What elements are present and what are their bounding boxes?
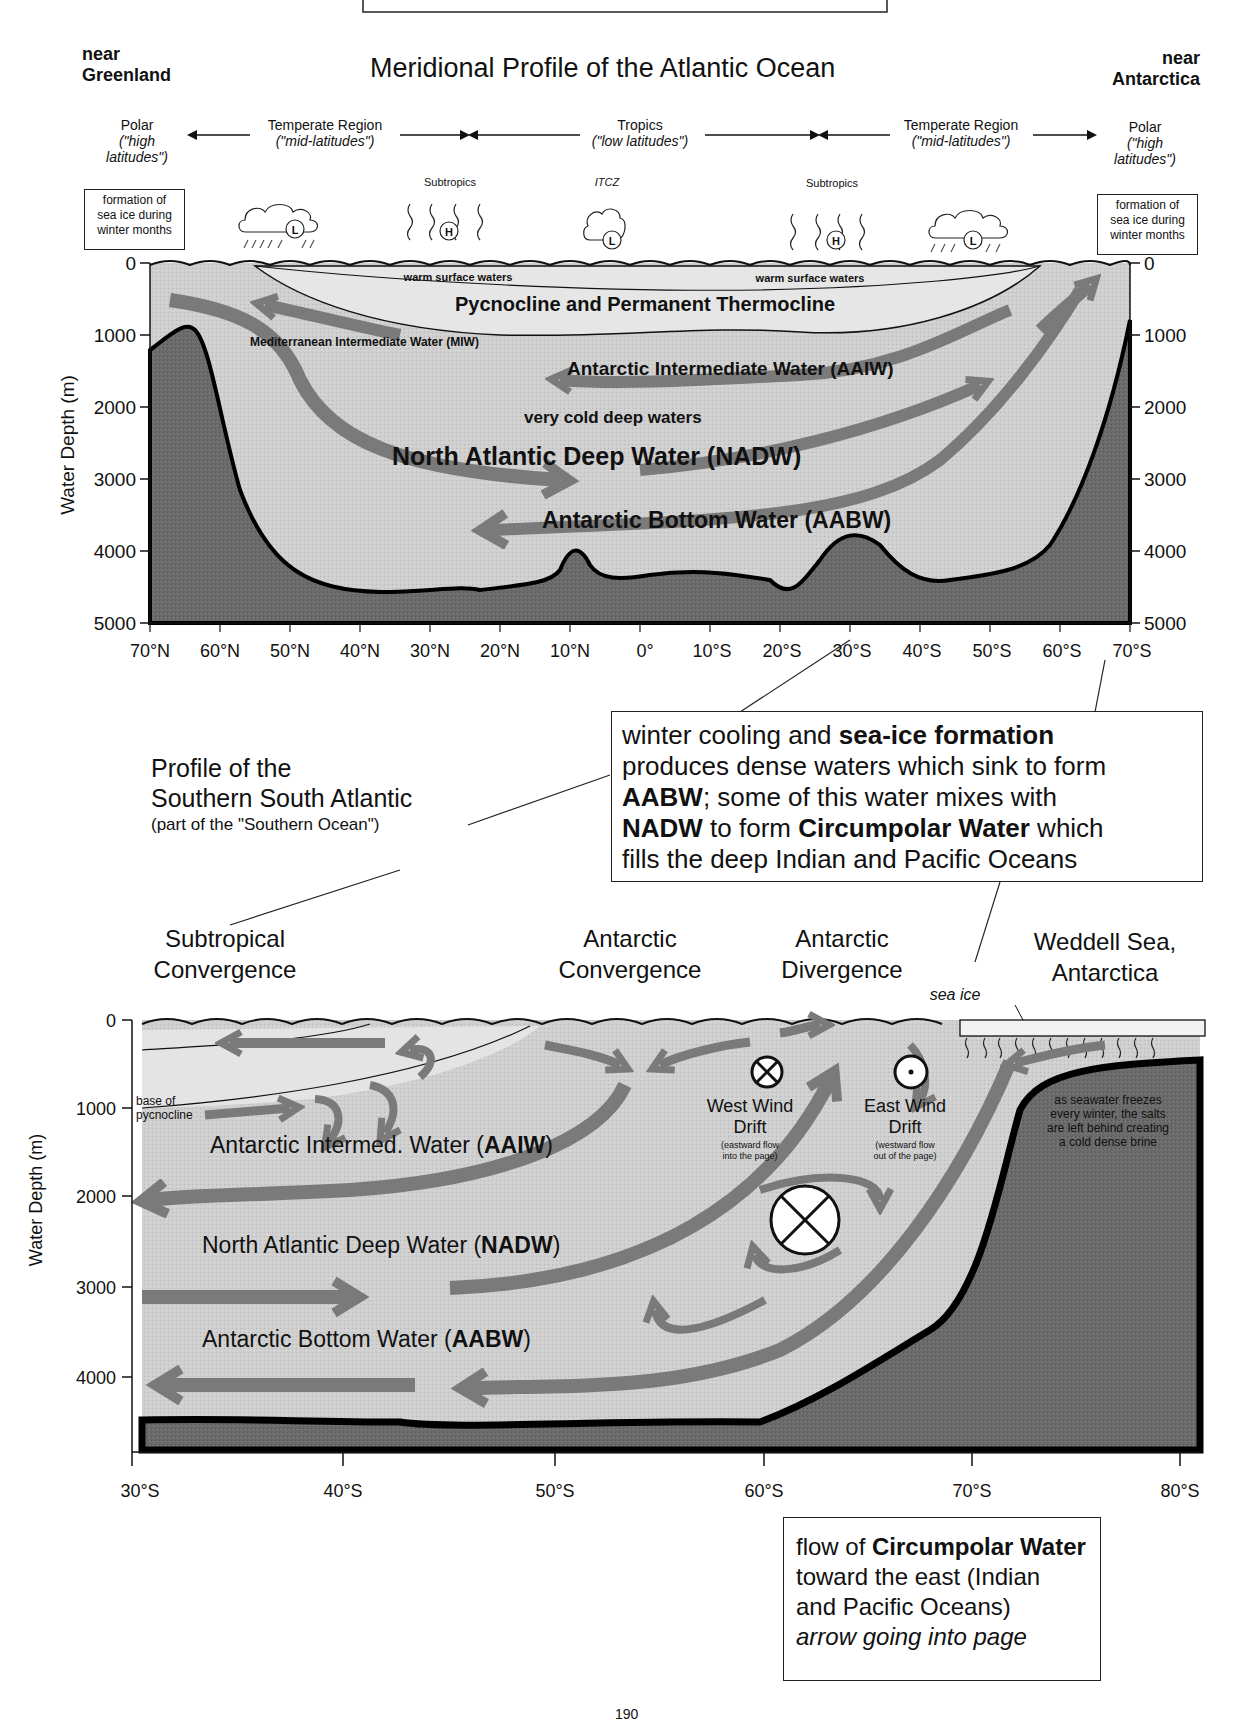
top-x-tick: 40°N (340, 641, 380, 661)
top-y-tick-right: 3000 (1144, 469, 1186, 490)
corner-line: near (82, 44, 171, 65)
evaporation-high-icon: H (408, 204, 483, 240)
east-wind-drift-sub: (westward flow (875, 1140, 935, 1150)
callout-bold: NADW (622, 813, 703, 843)
west-wind-drift-sub: (eastward flow (721, 1140, 780, 1150)
bottom-y-tick: 3000 (76, 1278, 116, 1298)
out-of-page-symbol-icon (895, 1056, 927, 1088)
antarctic-divergence-header: Antarctic Divergence (762, 923, 922, 985)
box-line: formation of (89, 193, 180, 208)
top-y-tick: 5000 (94, 613, 136, 634)
atlantic-profile-chart: 0 1000 2000 3000 4000 5000 0 1000 2000 3… (57, 253, 1186, 661)
top-y-axis-label: Water Depth (m) (57, 375, 78, 515)
top-chart-title: Meridional Profile of the Atlantic Ocean (370, 53, 835, 84)
header-line: Convergence (145, 954, 305, 985)
southern-ocean-profile-chart: 0 1000 2000 3000 4000 Water Depth (m) 30… (26, 986, 1205, 1501)
very-cold-label: very cold deep waters (524, 408, 702, 427)
top-x-tick: 20°N (480, 641, 520, 661)
brine-label: are left behind creating (1047, 1121, 1169, 1135)
region-tropics: Tropics ("low latitudes") (575, 117, 705, 149)
leader-line (1095, 660, 1105, 712)
itcz-cloud-icon: L (584, 209, 625, 249)
top-y-tick: 1000 (94, 325, 136, 346)
aaiw-label: Antarctic Intermediate Water (AAIW) (567, 358, 894, 379)
callout-text: which (1030, 813, 1104, 843)
storm-cloud-icon: L (929, 211, 1008, 253)
box-line: formation of (1102, 198, 1193, 213)
bottom-x-tick: 60°S (744, 1481, 783, 1501)
storm-cloud-icon: L (239, 205, 318, 249)
region-polar-north: Polar ("high latitudes") (92, 117, 182, 165)
circumpolar-flow-into-page-icon (771, 1186, 839, 1254)
callout-text: fills the deep Indian and Pacific Oceans (622, 844, 1192, 875)
corner-line: near (1112, 48, 1200, 69)
box-line: sea ice during (89, 208, 180, 223)
top-y-tick: 0 (125, 253, 136, 274)
bottom-x-tick: 50°S (535, 1481, 574, 1501)
evaporation-high-icon: H (791, 214, 865, 250)
top-x-tick: 70°S (1112, 641, 1151, 661)
top-x-tick: 10°N (550, 641, 590, 661)
subtropics-right-label: Subtropics (806, 177, 858, 189)
aaiw-label-south: Antarctic Intermed. Water (AAIW) (210, 1132, 553, 1158)
legend-text: flow of (796, 1533, 872, 1560)
brine-label: every winter, the salts (1050, 1107, 1165, 1121)
bottom-x-tick: 70°S (952, 1481, 991, 1501)
region-sub: ("high (1100, 135, 1190, 151)
low-pressure-symbol: L (609, 235, 616, 247)
top-y-tick-right: 2000 (1144, 397, 1186, 418)
top-x-tick: 30°S (832, 641, 871, 661)
pycnocline-label: Pycnocline and Permanent Thermocline (455, 293, 835, 315)
leader-line (975, 882, 1000, 962)
callout-bold: AABW (622, 782, 703, 812)
box-line: winter months (1102, 228, 1193, 243)
page-number: 190 (615, 1706, 638, 1722)
callout-text: to form (703, 813, 798, 843)
subtropical-convergence-header: Subtropical Convergence (145, 923, 305, 985)
title-subline: (part of the "Southern Ocean") (151, 813, 412, 837)
high-pressure-symbol: H (832, 235, 840, 247)
box-line: winter months (89, 223, 180, 238)
region-label: Tropics (575, 117, 705, 133)
into-page-symbol-icon (752, 1057, 782, 1087)
weddell-sea-header: Weddell Sea, Antarctica (1010, 926, 1200, 988)
region-sub: latitudes") (1100, 151, 1190, 167)
header-line: Divergence (762, 954, 922, 985)
title-line: Profile of the (151, 753, 412, 783)
corner-line: Antarctica (1112, 69, 1200, 90)
region-label: Polar (1100, 119, 1190, 135)
callout-text: produces dense waters which sink to form (622, 751, 1192, 782)
region-sub: ("mid-latitudes") (250, 133, 400, 149)
top-x-tick: 50°S (972, 641, 1011, 661)
bottom-x-tick: 40°S (323, 1481, 362, 1501)
sea-ice-label: sea ice (930, 986, 981, 1003)
low-pressure-symbol: L (292, 224, 299, 236)
header-line: Antarctic (762, 923, 922, 954)
region-label: Polar (92, 117, 182, 133)
legend-text: toward the east (Indian (796, 1562, 1088, 1592)
top-y-tick-right: 0 (1144, 253, 1155, 274)
east-wind-drift-label: Drift (889, 1117, 922, 1137)
aabw-label-south: Antarctic Bottom Water (AABW) (202, 1326, 531, 1352)
region-sub: ("low latitudes") (575, 133, 705, 149)
region-label: Temperate Region (888, 117, 1034, 133)
leader-line (468, 775, 610, 825)
west-wind-drift-label: Drift (734, 1117, 767, 1137)
header-line: Antarctic (540, 923, 720, 954)
east-wind-drift-sub: out of the page) (873, 1151, 936, 1161)
bottom-y-tick: 1000 (76, 1099, 116, 1119)
top-x-tick: 60°S (1042, 641, 1081, 661)
region-polar-south: Polar ("high latitudes") (1100, 119, 1190, 167)
west-wind-drift-sub: into the page) (722, 1151, 777, 1161)
top-x-tick: 50°N (270, 641, 310, 661)
sea-ice-slab (960, 1020, 1205, 1036)
header-line: Weddell Sea, (1010, 926, 1200, 957)
top-x-tick: 20°S (762, 641, 801, 661)
top-x-tick: 10°S (692, 641, 731, 661)
region-label: Temperate Region (250, 117, 400, 133)
low-pressure-symbol: L (970, 235, 977, 247)
bottom-y-axis-label: Water Depth (m) (26, 1134, 46, 1266)
callout-bold: Circumpolar Water (798, 813, 1030, 843)
region-sub: ("high (92, 133, 182, 149)
top-x-tick: 40°S (902, 641, 941, 661)
